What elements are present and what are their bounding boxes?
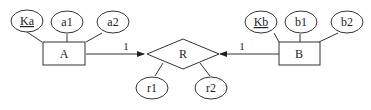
attribute-ka-label: Ka xyxy=(20,14,35,28)
connector-b2-b xyxy=(319,33,338,42)
entity-b-label: B xyxy=(295,47,303,61)
attribute-b1: b1 xyxy=(285,11,317,33)
entity-a-label: A xyxy=(60,47,69,61)
attribute-a1: a1 xyxy=(51,11,83,33)
relationship-r: R xyxy=(147,39,219,69)
connector-r-r2 xyxy=(200,63,210,76)
attribute-kb: Kb xyxy=(245,11,277,33)
attribute-a2-label: a2 xyxy=(107,15,118,29)
er-diagram: Ka a1 a2 A 1 1 R r1 r2 B Kb b1 xyxy=(0,0,371,110)
attribute-r2: r2 xyxy=(195,77,227,99)
attribute-b2-label: b2 xyxy=(341,15,353,29)
attribute-b2: b2 xyxy=(331,11,363,33)
entity-a: A xyxy=(43,42,85,65)
attribute-ka: Ka xyxy=(11,10,43,32)
connector-kb-b xyxy=(274,33,279,42)
connector-ka-a xyxy=(27,32,42,42)
attribute-a1-label: a1 xyxy=(61,15,72,29)
cardinality-a-r: 1 xyxy=(123,40,129,52)
attribute-b1-label: b1 xyxy=(295,15,307,29)
attribute-kb-label: Kb xyxy=(254,15,269,29)
connector-a2-a xyxy=(86,33,102,42)
entity-b: B xyxy=(279,42,320,65)
attribute-a2: a2 xyxy=(97,11,129,33)
connector-r-r1 xyxy=(155,63,163,76)
attribute-r2-label: r2 xyxy=(206,81,216,95)
attribute-r1: r1 xyxy=(136,77,168,99)
attribute-r1-label: r1 xyxy=(147,81,157,95)
cardinality-b-r: 1 xyxy=(239,40,245,52)
relationship-r-label: R xyxy=(179,47,187,61)
